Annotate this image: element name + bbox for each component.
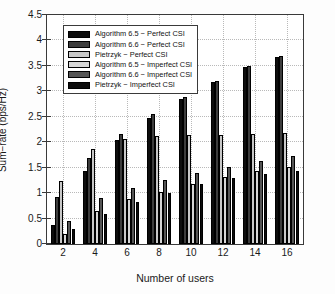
y-axis-tick-label: 2.5 [28,112,42,122]
bar-group-14 [239,15,271,244]
bar [283,133,286,244]
bar [215,81,218,244]
bar [187,135,190,244]
y-axis-tick-label: 3 [36,86,42,96]
plot-area: 00.511.522.533.544.5 246810121416 Algori… [46,14,304,245]
legend-color-swatch [68,82,90,89]
chart-legend: Algorithm 6.5 − Perfect CSIAlgorithm 6.6… [63,25,198,94]
legend-item: Algorithm 6.6 − Perfect CSI [68,39,192,49]
legend-item: Algorithm 6.6 − Imperfect CSI [68,70,192,80]
bar [243,67,246,244]
x-axis-tick-label: 10 [185,248,196,258]
bar [251,134,254,244]
bar [99,198,102,244]
y-axis-tick-label: 3.5 [28,61,42,71]
bar [264,174,267,244]
legend-label: Algorithm 6.6 − Imperfect CSI [95,71,192,78]
bar [200,184,203,244]
bar [259,161,262,244]
bar [211,82,214,244]
bar [123,139,126,244]
y-axis-tick-label: 1 [36,188,42,198]
bar [163,180,166,244]
y-axis-tick-label: 4.5 [28,10,42,20]
x-axis-tick-label: 8 [156,248,162,258]
legend-color-swatch [68,61,90,68]
bar [291,156,294,244]
y-axis-tick-label: 2 [36,137,42,147]
bar [232,178,235,244]
bar [83,171,86,244]
bar [287,167,290,244]
y-axis-tick-label: 0.5 [28,214,42,224]
y-axis-tick-label: 4 [36,35,42,45]
bar [115,140,118,244]
bar [63,234,66,244]
x-axis-tick-label: 2 [60,248,66,258]
bar [55,197,58,244]
bar [147,118,150,244]
bar [255,171,258,244]
x-axis-tick-label: 4 [92,248,98,258]
bar [136,202,139,244]
legend-color-swatch [68,51,90,58]
bar [296,171,299,244]
bar [155,136,158,244]
bar [127,199,130,244]
bar [72,229,75,244]
bar [219,135,222,244]
bar [104,214,107,244]
x-axis-tick-label: 14 [249,248,260,258]
bar [59,181,62,244]
bar [95,211,98,244]
legend-item: Algorithm 6.5 − Perfect CSI [68,29,192,39]
bar [131,188,134,244]
bar [247,66,250,244]
bar [183,97,186,244]
bar [159,192,162,244]
legend-color-swatch [68,41,90,48]
bar [279,56,282,244]
legend-label: Algorithm 6.6 − Perfect CSI [95,41,185,48]
bar [67,221,70,244]
bar [223,177,226,244]
legend-color-swatch [68,71,90,78]
bar [168,193,171,244]
x-axis-tick-label: 12 [217,248,228,258]
x-axis-tick-label: 16 [281,248,292,258]
y-axis-title: Sum−rate (bps/Hz) [0,88,8,172]
bar [191,184,194,244]
bar [151,114,154,244]
bar [179,99,182,244]
bar [51,225,54,244]
bar-group-16 [271,15,303,244]
bar [227,167,230,244]
bar [87,158,90,244]
bar-chart-figure: Sum−rate (bps/Hz) 00.511.522.533.544.5 2… [0,0,335,294]
bar-group-12 [207,15,239,244]
bar [119,134,122,244]
legend-color-swatch [68,31,90,38]
legend-label: Pietrzyk − Imperfect CSI [95,81,175,88]
x-axis-title: Number of users [136,272,214,284]
legend-item: Pietrzyk − Perfect CSI [68,49,192,59]
y-axis-tick-label: 1.5 [28,163,42,173]
bar [275,57,278,244]
legend-item: Algorithm 6.5 − Imperfect CSI [68,60,192,70]
legend-label: Algorithm 6.5 − Perfect CSI [95,30,185,37]
x-axis-tick-label: 6 [124,248,130,258]
y-axis-tick-label: 0 [36,239,42,249]
legend-label: Pietrzyk − Perfect CSI [95,51,168,58]
bar [195,173,198,244]
bar [91,149,94,244]
legend-item: Pietrzyk − Imperfect CSI [68,80,192,90]
legend-label: Algorithm 6.5 − Imperfect CSI [95,61,192,68]
